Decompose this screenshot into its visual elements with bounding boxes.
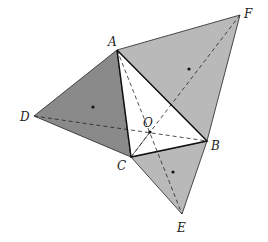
label-E: E (176, 221, 186, 235)
label-A: A (107, 35, 117, 49)
label-F: F (243, 7, 253, 21)
centroid-dot-ABF (187, 67, 190, 70)
label-D: D (19, 110, 30, 124)
centroid-dot-BCE (171, 170, 174, 173)
label-B: B (210, 139, 220, 153)
centroid-dot-ACD (91, 105, 94, 108)
label-C: C (117, 159, 126, 173)
triangle-ACD (34, 50, 131, 157)
label-O: O (143, 116, 153, 130)
geometry-diagram: A B C D E F O (0, 0, 268, 242)
point-O-dot (148, 130, 151, 133)
